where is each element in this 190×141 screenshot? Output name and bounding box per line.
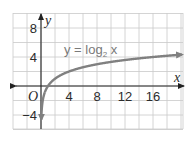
y-tick-label: −4 bbox=[22, 108, 37, 123]
y-tick-label: 8 bbox=[30, 21, 37, 36]
x-tick-label: 12 bbox=[118, 89, 132, 104]
y-axis-label: y bbox=[43, 13, 52, 28]
x-axis-label: x bbox=[173, 70, 181, 85]
x-tick-labels: 481216 bbox=[65, 89, 160, 104]
equation-main: y = log bbox=[64, 42, 103, 57]
log-curve-asymptote-arrow bbox=[41, 92, 45, 119]
equation-tail: x bbox=[107, 42, 118, 57]
log-graph: 481216 84−4 x y O y = log2 x bbox=[0, 0, 190, 141]
x-tick-label: 4 bbox=[65, 89, 72, 104]
y-tick-labels: 84−4 bbox=[22, 21, 37, 123]
log-curve bbox=[45, 55, 182, 93]
x-tick-label: 16 bbox=[146, 89, 160, 104]
y-tick-label: 4 bbox=[30, 50, 37, 65]
x-tick-label: 8 bbox=[93, 89, 100, 104]
origin-label: O bbox=[28, 89, 38, 104]
equation-label: y = log2 x bbox=[64, 42, 118, 59]
grid-lines bbox=[13, 13, 183, 130]
